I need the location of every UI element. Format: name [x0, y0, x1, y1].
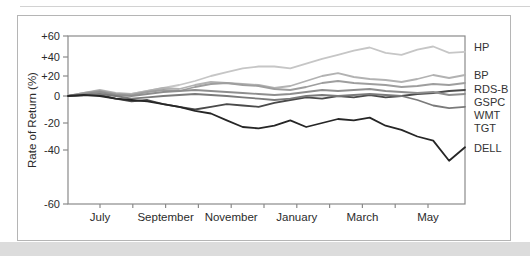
x-tick-label: July — [90, 211, 111, 223]
series-line-HP — [68, 47, 465, 97]
y-tick-label: -40 — [44, 144, 60, 156]
y-tick-label: -60 — [44, 198, 60, 210]
series-label-BP: BP — [474, 69, 489, 81]
series-label-TGT: TGT — [474, 122, 496, 134]
x-tick-label: September — [137, 211, 193, 223]
y-tick-label: -20 — [44, 117, 60, 129]
y-axis-title: Rate of Return (%) — [26, 72, 38, 168]
y-tick-label: 0 — [54, 90, 60, 102]
x-tick-label: March — [346, 211, 378, 223]
series-label-WMT: WMT — [474, 109, 501, 121]
series-label-HP: HP — [474, 41, 489, 53]
plot-area — [68, 36, 465, 204]
rate-of-return-chart: +60+40+200-20-40-60Rate of Return (%)Jul… — [0, 0, 530, 256]
series-label-RDS-B: RDS-B — [474, 83, 508, 95]
y-tick-label: +40 — [41, 51, 60, 63]
x-tick-label: November — [205, 211, 258, 223]
series-label-DELL: DELL — [474, 142, 502, 154]
x-tick-label: May — [417, 211, 439, 223]
series-label-GSPC: GSPC — [474, 96, 505, 108]
x-tick-label: January — [276, 211, 317, 223]
y-tick-label: +20 — [41, 70, 60, 82]
y-tick-label: +60 — [41, 30, 60, 42]
page: { "figure": { "frame_border_color": "#b5… — [0, 0, 530, 256]
